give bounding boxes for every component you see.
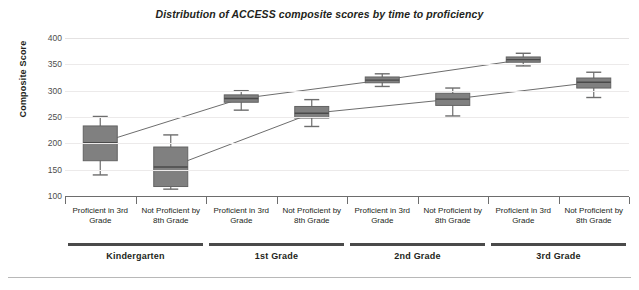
gridline	[65, 38, 629, 39]
group-label: 1st Grade	[209, 251, 344, 261]
y-axis-tick-label: 200	[28, 138, 62, 148]
x-axis: Proficient in 3rd GradeNot Proficient by…	[65, 196, 629, 236]
chart-root: Distribution of ACCESS composite scores …	[0, 0, 639, 290]
gridline	[65, 170, 629, 171]
group-label-block: 2nd Grade	[350, 243, 485, 261]
group-underline	[350, 243, 485, 246]
x-axis-category-label: Not Proficient by 8th Grade	[418, 206, 489, 226]
box	[577, 78, 611, 88]
gridline	[65, 64, 629, 65]
x-axis-category-label: Not Proficient by 8th Grade	[277, 206, 348, 226]
x-axis-tick	[488, 197, 489, 204]
gridline	[65, 91, 629, 92]
x-axis-category-label: Not Proficient by 8th Grade	[136, 206, 207, 226]
y-axis-ticks: 400350300250200150100	[0, 0, 62, 290]
x-axis-category-label: Not Proficient by 8th Grade	[559, 206, 630, 226]
y-axis-tick-label: 250	[28, 112, 62, 122]
boxplot	[365, 74, 399, 87]
group-label-block: 1st Grade	[209, 243, 344, 261]
x-axis-category-label: Proficient in 3rd Grade	[65, 206, 136, 226]
x-axis-tick	[136, 197, 137, 204]
y-axis-tick-label: 150	[28, 165, 62, 175]
group-underline	[491, 243, 626, 246]
y-axis-tick-label: 350	[28, 59, 62, 69]
x-axis-tick	[347, 197, 348, 204]
x-axis-tick	[629, 197, 630, 204]
x-axis-tick	[277, 197, 278, 204]
footer-divider	[8, 277, 631, 278]
boxplot	[83, 116, 117, 174]
group-label: 2nd Grade	[350, 251, 485, 261]
x-axis-category-label: Proficient in 3rd Grade	[488, 206, 559, 226]
group-label: Kindergarten	[68, 251, 203, 261]
group-label-block: 3rd Grade	[491, 243, 626, 261]
x-axis-tick	[206, 197, 207, 204]
group-label: 3rd Grade	[491, 251, 626, 261]
gridline	[65, 143, 629, 144]
x-axis-category-label: Proficient in 3rd Grade	[347, 206, 418, 226]
y-axis-tick-label: 400	[28, 33, 62, 43]
x-axis-tick	[65, 197, 66, 204]
boxplot	[436, 88, 470, 116]
group-underline	[68, 243, 203, 246]
x-axis-tick	[559, 197, 560, 204]
group-underline	[209, 243, 344, 246]
group-axis: Kindergarten1st Grade2nd Grade3rd Grade	[65, 243, 629, 273]
x-axis-category-label: Proficient in 3rd Grade	[206, 206, 277, 226]
y-axis-tick-label: 100	[28, 191, 62, 201]
y-axis-tick-label: 300	[28, 86, 62, 96]
boxplot	[224, 91, 258, 110]
x-axis-tick	[418, 197, 419, 204]
group-label-block: Kindergarten	[68, 243, 203, 261]
gridline	[65, 117, 629, 118]
boxplot	[577, 72, 611, 97]
boxplot	[295, 100, 329, 127]
